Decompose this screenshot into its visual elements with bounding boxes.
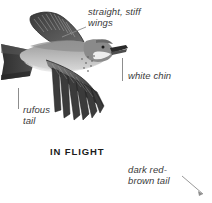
bird-eye — [102, 46, 105, 49]
leader-line-white-chin — [122, 58, 123, 81]
field-guide-plate: straight, stiff wings white chin rufous … — [0, 0, 212, 203]
leader-line-rufous-tail — [18, 88, 19, 109]
label-white-chin: white chin — [128, 70, 171, 81]
caption-in-flight: IN FLIGHT — [50, 146, 105, 157]
label-straight-stiff-wings: straight, stiff wings — [88, 6, 141, 28]
label-rufous-tail: rufous tail — [23, 104, 50, 126]
label-dark-red-brown-tail: dark red- brown tail — [128, 164, 170, 186]
bird-in-flight-illustration — [0, 0, 212, 203]
